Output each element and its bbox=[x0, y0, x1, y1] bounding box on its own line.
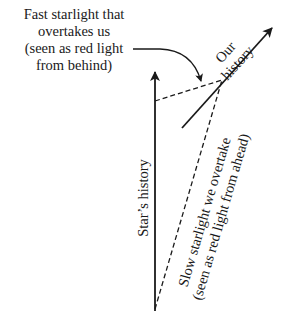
our-history-label: Our history bbox=[206, 31, 257, 83]
pointer-arrow bbox=[133, 49, 201, 81]
diagram-canvas: Our history Star’s history Slow starligh… bbox=[0, 0, 290, 322]
fast-starlight-ray bbox=[155, 80, 222, 101]
spacetime-diagram: Fast starlight that overtakes us (seen a… bbox=[0, 0, 290, 322]
slow-starlight-label: Slow starlight we overtake (seen as red … bbox=[172, 127, 253, 302]
star-history-label: Star’s history bbox=[135, 159, 151, 237]
svg-text:Star’s history: Star’s history bbox=[135, 159, 151, 237]
